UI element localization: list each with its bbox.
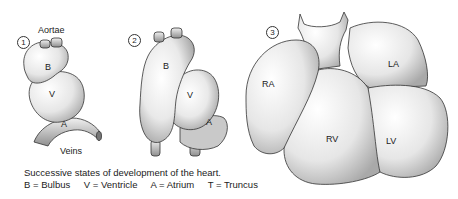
label-right-atrium: RA: [262, 80, 275, 89]
stage-3-heart: [246, 12, 448, 184]
label-aortae: Aortae: [38, 26, 65, 35]
stage-number-2: 2: [128, 34, 141, 47]
legend-truncus: T = Truncus: [208, 179, 258, 190]
label-left-atrium: LA: [388, 60, 399, 69]
label-veins: Veins: [60, 147, 82, 156]
label-atrium-2: A: [206, 118, 212, 127]
label-bulbus-2: B: [163, 62, 169, 71]
stage-1-heart: [24, 38, 102, 146]
label-right-ventricle: RV: [326, 135, 338, 144]
heart-development-figure: 1 2 3 Aortae B V A Veins B V A RA LA RV …: [0, 0, 458, 199]
stage-2-heart: [140, 28, 228, 156]
label-bulbus-1: B: [45, 63, 51, 72]
figure-caption: Successive states of development of the …: [24, 167, 221, 178]
legend-bulbus: B = Bulbus: [24, 179, 70, 190]
stage-number-1: 1: [17, 36, 30, 49]
figure-legend: B = Bulbus V = Ventricle A = Atrium T = …: [24, 179, 269, 190]
legend-ventricle: V = Ventricle: [84, 179, 138, 190]
stage-number-3: 3: [266, 26, 279, 39]
label-left-ventricle: LV: [386, 137, 396, 146]
legend-atrium: A = Atrium: [151, 179, 195, 190]
label-ventricle-2: V: [187, 91, 193, 100]
label-ventricle-1: V: [49, 90, 55, 99]
label-atrium-1: A: [61, 120, 67, 129]
